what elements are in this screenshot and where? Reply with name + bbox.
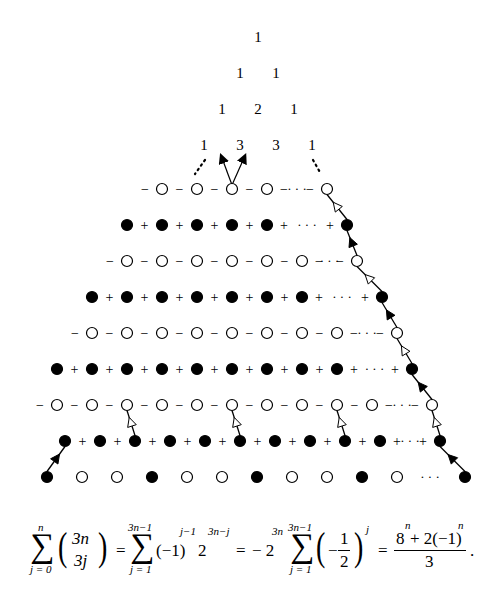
- open-node: [427, 400, 438, 411]
- term2-two-exp: 3n−j: [208, 525, 229, 537]
- filled-node: [407, 364, 418, 375]
- sign-symbol: +: [316, 362, 324, 377]
- sign-symbol: −: [351, 398, 359, 413]
- sum1-lower: j = 0: [30, 563, 51, 575]
- sign-symbol: +: [141, 218, 149, 233]
- sign-symbol: −: [71, 326, 79, 341]
- sign-symbol: −: [246, 254, 254, 269]
- sign-symbol: +: [359, 434, 367, 449]
- open-node: [392, 328, 403, 339]
- open-node: [52, 400, 63, 411]
- filled-node: [297, 364, 308, 375]
- filled-node: [270, 436, 281, 447]
- sign-symbol: +: [79, 434, 87, 449]
- filled-node: [227, 292, 238, 303]
- sigma-icon: ∑: [290, 529, 314, 563]
- filled-node: [460, 472, 471, 483]
- pascal-entry: 1: [218, 101, 226, 117]
- open-node: [262, 256, 273, 267]
- filled-node: [200, 436, 211, 447]
- open-node: [262, 184, 273, 195]
- sign-symbol: +: [281, 290, 289, 305]
- sign-symbol: −: [246, 398, 254, 413]
- result-den: 3: [425, 552, 434, 572]
- filled-arrow-icon: [386, 310, 394, 320]
- sign-symbol: +: [211, 290, 219, 305]
- filled-node: [147, 472, 158, 483]
- sign-symbol: +: [246, 218, 254, 233]
- sign-symbol: +: [211, 362, 219, 377]
- term3-minus: −: [328, 541, 338, 561]
- arrow-icon: [232, 158, 244, 185]
- filled-node: [122, 364, 133, 375]
- sign-symbol: −: [281, 326, 289, 341]
- filled-arrow-icon: [349, 238, 357, 248]
- sign-symbol: −: [71, 398, 79, 413]
- pascal-entry: 1: [308, 137, 316, 153]
- filled-arrow-icon: [51, 454, 60, 464]
- filled-node: [340, 436, 351, 447]
- open-node: [262, 400, 273, 411]
- sign-symbol: −: [211, 398, 219, 413]
- sign-symbol: −: [141, 398, 149, 413]
- sign-symbol: −: [141, 326, 149, 341]
- sign-symbol: +: [315, 290, 323, 305]
- open-node: [322, 184, 333, 195]
- sign-symbol: −: [281, 254, 289, 269]
- filled-node: [235, 436, 246, 447]
- sign-symbol: +: [141, 362, 149, 377]
- open-node: [297, 328, 308, 339]
- open-node: [122, 400, 133, 411]
- term2-exp: j−1: [180, 525, 196, 537]
- open-node: [157, 328, 168, 339]
- sign-symbol: +: [176, 362, 184, 377]
- sign-symbol: +: [246, 362, 254, 377]
- open-node: [287, 472, 298, 483]
- sign-symbol: +: [391, 362, 399, 377]
- sign-symbol: −: [176, 182, 184, 197]
- filled-node: [52, 364, 63, 375]
- sign-symbol: +: [176, 290, 184, 305]
- filled-node: [377, 292, 388, 303]
- open-arrow-icon: [333, 202, 342, 212]
- filled-node: [157, 292, 168, 303]
- result-num-rest-exp: n: [458, 519, 464, 531]
- filled-node: [157, 220, 168, 231]
- open-node: [322, 472, 333, 483]
- pascal-entry: 1: [290, 101, 298, 117]
- sign-symbol: −: [176, 398, 184, 413]
- filled-node: [227, 364, 238, 375]
- sign-symbol: +: [184, 434, 192, 449]
- sign-symbol: −: [411, 398, 419, 413]
- sign-symbol: +: [176, 218, 184, 233]
- sign-symbol: +: [114, 434, 122, 449]
- sign-symbol: −: [141, 254, 149, 269]
- sign-symbol: +: [361, 290, 369, 305]
- sign-symbol: +: [71, 362, 79, 377]
- open-node: [87, 328, 98, 339]
- sign-symbol: +: [350, 362, 358, 377]
- sigma-icon: ∑: [130, 529, 154, 563]
- ellipsis: · · ·: [297, 217, 317, 232]
- ellipsis: · · ·: [400, 433, 420, 448]
- filled-node: [157, 364, 168, 375]
- sign-symbol: −: [211, 182, 219, 197]
- open-node: [227, 328, 238, 339]
- sign-symbol: +: [246, 290, 254, 305]
- sign-symbol: +: [149, 434, 157, 449]
- term2-base: (−1): [156, 541, 185, 561]
- sign-symbol: +: [419, 434, 427, 449]
- filled-node: [87, 364, 98, 375]
- sign-symbol: −: [106, 326, 114, 341]
- sign-symbol: +: [141, 290, 149, 305]
- sign-symbol: −: [141, 182, 149, 197]
- filled-node: [192, 292, 203, 303]
- filled-node: [122, 220, 133, 231]
- binom-left-paren: (: [58, 527, 67, 567]
- sign-symbol: +: [289, 434, 297, 449]
- open-node: [112, 472, 123, 483]
- filled-arrow-icon: [418, 382, 427, 392]
- equals-3: =: [378, 541, 388, 561]
- filled-node: [297, 292, 308, 303]
- filled-node: [262, 364, 273, 375]
